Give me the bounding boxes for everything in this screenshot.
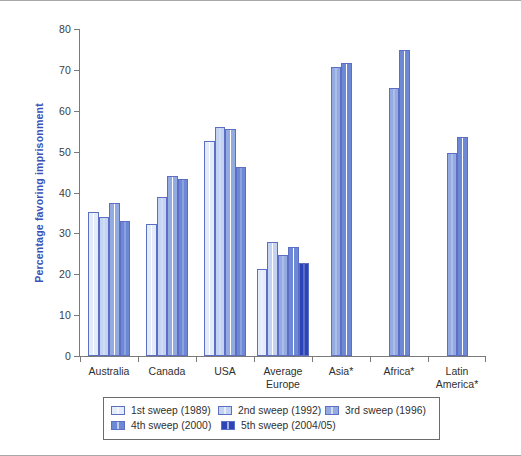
bar — [109, 203, 120, 356]
x-axis-label: Australia — [89, 365, 130, 378]
x-axis-label: Canada — [149, 365, 186, 378]
legend-swatch — [111, 421, 125, 430]
x-axis-label: Asia* — [329, 365, 354, 378]
y-axis-title: Percentage favoring imprisonment — [32, 29, 46, 356]
bar-group: Australia — [80, 29, 138, 356]
x-axis-tick — [428, 356, 429, 362]
legend-swatch — [221, 421, 235, 430]
bar — [146, 224, 157, 356]
y-axis-tick-label: 60 — [59, 105, 71, 117]
bar — [447, 153, 458, 356]
bar-group: Canada — [138, 29, 196, 356]
bar — [167, 176, 178, 356]
bar — [457, 137, 468, 356]
legend-row: 1st sweep (1989)2nd sweep (1992)3rd swee… — [111, 403, 432, 418]
x-axis-label-line: Latin — [436, 365, 479, 378]
bar-groups: AustraliaCanadaUSAAverageEuropeAsia*Afri… — [80, 29, 486, 356]
bar — [389, 88, 400, 356]
bar — [225, 129, 236, 356]
y-axis-title-text: Percentage favoring imprisonment — [33, 103, 45, 283]
y-axis-tick-label: 0 — [65, 350, 71, 362]
x-axis-label: LatinAmerica* — [436, 365, 479, 391]
y-axis-tick-label: 80 — [59, 23, 71, 35]
x-axis-label-line: Asia* — [329, 365, 354, 378]
figure-frame: Percentage favoring imprisonment 0102030… — [0, 0, 521, 456]
y-axis-tick-label: 70 — [59, 64, 71, 76]
bar — [399, 50, 410, 356]
legend-label: 3rd sweep (1996) — [345, 405, 426, 416]
bar — [178, 179, 189, 356]
bar — [204, 141, 215, 356]
bar — [99, 217, 110, 356]
legend-item[interactable]: 1st sweep (1989) — [111, 405, 218, 416]
x-axis-label-line: Europe — [264, 378, 303, 391]
legend-label: 5th sweep (2004/05) — [241, 420, 336, 431]
y-axis-tick-label: 40 — [59, 187, 71, 199]
x-axis-tick — [254, 356, 255, 362]
x-axis-tick — [485, 356, 486, 362]
x-axis-label: Africa* — [384, 365, 415, 378]
bar — [215, 127, 226, 356]
bar-group: LatinAmerica* — [428, 29, 486, 356]
bar — [267, 242, 278, 356]
legend-swatch — [111, 406, 125, 415]
bar — [88, 212, 99, 356]
x-axis-label-line: Australia — [89, 365, 130, 378]
bar — [120, 221, 131, 356]
y-axis-tick-label: 10 — [59, 309, 71, 321]
y-axis-tick-label: 30 — [59, 227, 71, 239]
bar-group: Asia* — [312, 29, 370, 356]
bar — [341, 63, 352, 356]
legend-item[interactable]: 2nd sweep (1992) — [218, 405, 325, 416]
x-axis-tick — [138, 356, 139, 362]
legend-item[interactable]: 5th sweep (2004/05) — [221, 420, 331, 431]
x-axis-tick — [80, 356, 81, 362]
y-axis-tick-label: 20 — [59, 268, 71, 280]
bar — [288, 247, 299, 356]
legend-label: 2nd sweep (1992) — [238, 405, 321, 416]
x-axis-label: USA — [214, 365, 236, 378]
x-axis-label-line: Canada — [149, 365, 186, 378]
y-axis-tick-label: 50 — [59, 146, 71, 158]
legend-swatch — [325, 406, 339, 415]
bar — [257, 269, 268, 356]
bar-group: AverageEurope — [254, 29, 312, 356]
x-axis-label-line: USA — [214, 365, 236, 378]
legend-row: 4th sweep (2000)5th sweep (2004/05) — [111, 418, 432, 433]
x-axis-tick — [312, 356, 313, 362]
bar — [278, 255, 289, 356]
legend-item[interactable]: 4th sweep (2000) — [111, 420, 221, 431]
x-axis-label-line: Average — [264, 365, 303, 378]
x-axis-label: AverageEurope — [264, 365, 303, 391]
x-axis-tick — [196, 356, 197, 362]
legend-item[interactable]: 3rd sweep (1996) — [325, 405, 432, 416]
bar-group: Africa* — [370, 29, 428, 356]
bar — [299, 263, 310, 356]
chart-legend: 1st sweep (1989)2nd sweep (1992)3rd swee… — [103, 397, 440, 440]
x-axis-tick — [370, 356, 371, 362]
bar — [331, 67, 342, 356]
bar — [236, 167, 247, 356]
bar — [157, 197, 168, 356]
x-axis-label-line: Africa* — [384, 365, 415, 378]
legend-label: 1st sweep (1989) — [131, 405, 211, 416]
bar-group: USA — [196, 29, 254, 356]
legend-swatch — [218, 406, 232, 415]
legend-label: 4th sweep (2000) — [131, 420, 211, 431]
x-axis-label-line: America* — [436, 378, 479, 391]
plot-area: 01020304050607080 AustraliaCanadaUSAAver… — [79, 29, 486, 357]
